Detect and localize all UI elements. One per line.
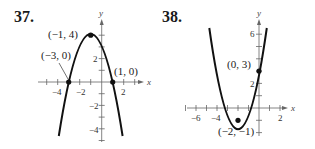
y-axis-arrow-icon bbox=[257, 19, 261, 25]
y-axis-arrow-icon bbox=[100, 19, 104, 25]
x-axis-arrow-icon bbox=[282, 106, 288, 110]
y-tick-label: 2 bbox=[93, 54, 98, 64]
vertex-point bbox=[88, 33, 93, 38]
point-label-vertex: (−1, 4) bbox=[48, 28, 78, 41]
point-label-y-intercept: (0, 3) bbox=[227, 58, 251, 71]
point-label-vertex: (−2, −1) bbox=[218, 125, 255, 138]
x-axis-label: x bbox=[290, 103, 295, 113]
problem-number-38: 38. bbox=[162, 8, 182, 25]
leader-line bbox=[59, 63, 68, 79]
point-label-right-intercept: (1, 0) bbox=[114, 65, 138, 78]
x-tick-label: −6 bbox=[191, 113, 201, 123]
x-intercept-point bbox=[110, 79, 115, 84]
x-tick-label: −4 bbox=[211, 113, 221, 123]
y-tick-label: 6 bbox=[250, 29, 255, 39]
x-tick-label: 2 bbox=[121, 87, 126, 97]
x-intercept-point bbox=[66, 79, 71, 84]
graph-38: 38. x −6 −4 2 y bbox=[162, 8, 295, 138]
x-tick-label: 2 bbox=[278, 113, 283, 123]
y-tick-label: 2 bbox=[250, 79, 255, 89]
point-label-left-intercept: (−3, 0) bbox=[41, 49, 71, 62]
figure: 37. x −4 −2 2 y bbox=[0, 0, 315, 149]
problem-number-37: 37. bbox=[14, 8, 34, 25]
vertex-point bbox=[235, 118, 240, 123]
graph-37: 37. x −4 −2 2 y bbox=[14, 8, 151, 142]
y-tick-label: −4 bbox=[89, 125, 99, 135]
x-tick-label: −2 bbox=[76, 87, 86, 97]
y-axis-label: y bbox=[256, 8, 261, 18]
x-axis-label: x bbox=[146, 77, 151, 87]
y-axis-label: y bbox=[98, 8, 103, 18]
x-axis-arrow-icon bbox=[138, 80, 144, 84]
x-tick-label: −4 bbox=[52, 87, 62, 97]
y-intercept-point bbox=[256, 69, 261, 74]
y-tick-label: −2 bbox=[89, 101, 99, 111]
